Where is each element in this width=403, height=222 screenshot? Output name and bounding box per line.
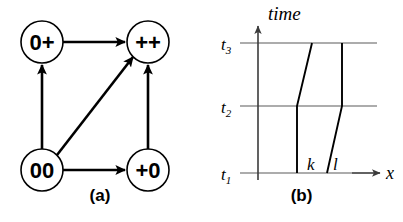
curve-label-k: k — [307, 155, 315, 174]
caption-panel-b: (b) — [200, 186, 403, 206]
node-label-plusplus: ++ — [135, 30, 161, 55]
figure-container: 0+ ++ 00 +0 — [0, 0, 403, 222]
x-axis-label: x — [385, 163, 394, 183]
curve-label-l: l — [333, 155, 338, 174]
y-tick-labels: t3 t2 t1 — [221, 35, 232, 186]
caption-panel-a: (a) — [0, 186, 200, 206]
trajectory-l — [327, 43, 342, 173]
node-label-0plus: 0+ — [29, 30, 54, 55]
gridlines — [240, 43, 377, 173]
tick-label-t1: t1 — [221, 165, 231, 186]
y-axis-label-time: time — [268, 3, 301, 24]
tick-label-t3: t3 — [221, 35, 232, 56]
node-plusplus[interactable]: ++ — [127, 21, 169, 63]
trajectory-k — [297, 43, 312, 173]
edge-00-to-plusplus-diagonal — [57, 57, 133, 155]
node-plus0[interactable]: +0 — [127, 149, 169, 191]
node-00[interactable]: 00 — [21, 149, 63, 191]
node-label-00: 00 — [30, 158, 54, 183]
node-0plus[interactable]: 0+ — [21, 21, 63, 63]
node-label-plus0: +0 — [135, 158, 160, 183]
tick-label-t2: t2 — [221, 98, 232, 119]
